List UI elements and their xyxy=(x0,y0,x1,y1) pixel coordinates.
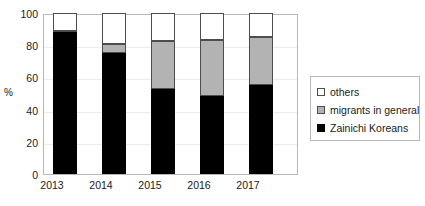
bar-segment-others[interactable] xyxy=(53,13,77,31)
x-tick-label-2013: 2013 xyxy=(29,180,75,191)
y-tick-label: 0 xyxy=(14,170,38,181)
bar-segment-migrants-in-general[interactable] xyxy=(249,37,273,85)
bar-segment-zainichi-koreans[interactable] xyxy=(53,32,77,174)
legend: others migrants in general Zainichi Kore… xyxy=(310,76,420,141)
x-tick-label-2016: 2016 xyxy=(176,180,222,191)
legend-item-others[interactable]: others xyxy=(317,86,359,98)
y-tick-label: 100 xyxy=(14,9,38,20)
bar-segment-others[interactable] xyxy=(249,13,273,37)
x-tick-label-2017: 2017 xyxy=(225,180,271,191)
bar-segment-migrants-in-general[interactable] xyxy=(200,40,224,96)
stacked-bar-chart: % 100 80 60 40 20 0 xyxy=(0,0,425,206)
bar-segment-zainichi-koreans[interactable] xyxy=(151,89,175,174)
legend-item-label: Zainichi Koreans xyxy=(330,123,408,134)
bar-segment-others[interactable] xyxy=(200,13,224,40)
y-tick-label: 20 xyxy=(14,138,38,149)
x-tick-label-2015: 2015 xyxy=(127,180,173,191)
y-tick-label: 80 xyxy=(14,41,38,52)
bar-segment-migrants-in-general[interactable] xyxy=(151,41,175,89)
y-axis-title: % xyxy=(4,88,13,98)
white-square-icon xyxy=(317,88,325,96)
legend-item-label: migrants in general xyxy=(330,105,419,116)
legend-item-migrants-in-general[interactable]: migrants in general xyxy=(317,104,419,116)
legend-item-label: others xyxy=(330,87,359,98)
gray-square-icon xyxy=(317,106,325,114)
bar-segment-zainichi-koreans[interactable] xyxy=(249,85,273,174)
bar-segment-others[interactable] xyxy=(151,13,175,41)
legend-item-zainichi-koreans[interactable]: Zainichi Koreans xyxy=(317,122,408,134)
bar-segment-others[interactable] xyxy=(102,13,126,44)
bar-segment-zainichi-koreans[interactable] xyxy=(102,53,126,174)
y-tick-label: 60 xyxy=(14,73,38,84)
bar-segment-zainichi-koreans[interactable] xyxy=(200,96,224,174)
black-square-icon xyxy=(317,124,325,132)
y-tick-label: 40 xyxy=(14,105,38,116)
x-tick-label-2014: 2014 xyxy=(78,180,124,191)
bar-segment-migrants-in-general[interactable] xyxy=(102,44,126,54)
plot-area xyxy=(43,14,298,175)
